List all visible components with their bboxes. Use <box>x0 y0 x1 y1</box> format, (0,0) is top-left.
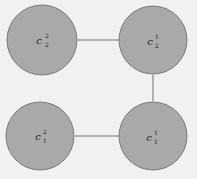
node-c11: c 1 1 <box>119 102 187 170</box>
svg-text:1: 1 <box>154 138 158 145</box>
svg-text:1: 1 <box>43 137 47 144</box>
grid-diagram: c 2 2 c 1 2 c 2 1 c 1 1 <box>0 0 197 179</box>
svg-text:2: 2 <box>45 32 49 39</box>
svg-text:1: 1 <box>155 33 159 40</box>
svg-text:c: c <box>146 132 152 143</box>
svg-text:1: 1 <box>154 129 158 136</box>
svg-text:2: 2 <box>45 41 49 48</box>
svg-text:2: 2 <box>155 42 159 49</box>
node-c22: c 2 2 <box>7 5 77 75</box>
svg-text:c: c <box>35 131 41 142</box>
svg-text:c: c <box>147 36 153 47</box>
svg-text:2: 2 <box>43 128 47 135</box>
node-c21: c 2 1 <box>6 102 74 170</box>
svg-text:c: c <box>36 35 42 46</box>
node-c12: c 1 2 <box>119 6 187 74</box>
